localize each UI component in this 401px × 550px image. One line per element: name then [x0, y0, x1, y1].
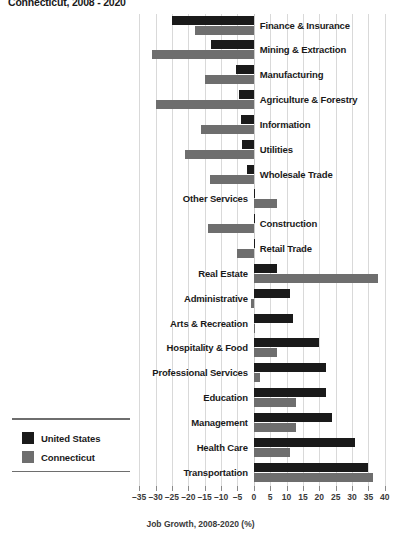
- axis-tick: [139, 486, 140, 491]
- bar-ct: [201, 125, 253, 134]
- bar-ct: [195, 26, 254, 35]
- category-label: Wholesale Trade: [260, 170, 333, 180]
- legend-rule-bottom: [12, 471, 130, 473]
- bar-us: [254, 338, 320, 347]
- legend-swatch-icon-connecticut: [22, 451, 34, 463]
- axis-tick: [156, 486, 157, 491]
- axis-tick: [352, 486, 353, 491]
- axis-tick-label: 5: [268, 492, 273, 502]
- bar-us: [254, 239, 256, 248]
- axis-tick-label: 40: [380, 492, 389, 502]
- x-axis-label: Job Growth, 2008-2020 (%): [0, 519, 401, 529]
- category-label: Arts & Recreation: [170, 319, 248, 329]
- axis-tick: [385, 486, 386, 491]
- bar-us: [211, 40, 254, 49]
- axis-tick-label: –10: [214, 492, 228, 502]
- axis-tick: [319, 486, 320, 491]
- legend-item-united-states[interactable]: United States: [22, 432, 100, 444]
- axis-tick: [188, 486, 189, 491]
- legend-item-connecticut[interactable]: Connecticut: [22, 451, 95, 463]
- bar-ct: [208, 224, 254, 233]
- axis-tick-label: –20: [181, 492, 195, 502]
- legend-label-connecticut: Connecticut: [41, 452, 95, 463]
- bar-ct: [254, 274, 378, 283]
- axis-tick: [287, 486, 288, 491]
- category-label: Real Estate: [198, 269, 248, 279]
- category-label: Retail Trade: [260, 244, 312, 254]
- category-label: Utilities: [260, 145, 293, 155]
- bar-us: [254, 314, 293, 323]
- bar-us: [254, 388, 326, 397]
- bar-us: [242, 140, 253, 149]
- axis-tick: [205, 486, 206, 491]
- axis-tick-label: 20: [315, 492, 324, 502]
- axis-tick: [368, 486, 369, 491]
- bar-ct: [254, 448, 290, 457]
- bar-group: [131, 438, 393, 463]
- category-label: Other Services: [183, 194, 248, 204]
- category-label: Management: [191, 418, 248, 428]
- bar-us: [239, 90, 254, 99]
- chart-legend: United States Connecticut: [12, 418, 130, 472]
- category-label: Finance & Insurance: [260, 21, 350, 31]
- axis-tick: [270, 486, 271, 491]
- axis-tick: [336, 486, 337, 491]
- bar-group: [131, 413, 393, 438]
- axis-tick-label: 30: [347, 492, 356, 502]
- bar-group: [131, 463, 393, 488]
- bar-ct: [251, 299, 254, 308]
- bar-group: [131, 388, 393, 413]
- chart-plot-area: Finance & InsuranceMining & ExtractionMa…: [131, 14, 393, 486]
- bar-us: [241, 115, 254, 124]
- category-label: Professional Services: [152, 368, 248, 378]
- bar-ct: [237, 249, 253, 258]
- bar-ct: [210, 175, 254, 184]
- category-label: Education: [203, 393, 248, 403]
- axis-tick-label: –5: [233, 492, 242, 502]
- axis-tick: [303, 486, 304, 491]
- bar-ct: [156, 100, 254, 109]
- category-label: Manufacturing: [260, 70, 324, 80]
- bar-ct: [254, 473, 374, 482]
- bar-us: [254, 363, 326, 372]
- axis-tick-label: 35: [364, 492, 373, 502]
- category-label: Health Care: [197, 443, 248, 453]
- legend-label-united-states: United States: [41, 433, 100, 444]
- axis-tick: [254, 486, 255, 491]
- bar-us: [236, 65, 254, 74]
- bar-us: [254, 413, 333, 422]
- bar-us: [254, 214, 256, 223]
- bar-ct: [254, 324, 256, 333]
- bar-ct: [152, 50, 254, 59]
- bar-us: [254, 189, 256, 198]
- page-title: Connecticut, 2008 - 2020: [8, 0, 126, 8]
- axis-tick-label: 10: [282, 492, 291, 502]
- bar-us: [247, 165, 254, 174]
- category-label: Hospitality & Food: [167, 343, 248, 353]
- bar-group: [131, 289, 393, 314]
- bar-group: [131, 189, 393, 214]
- bar-ct: [254, 373, 261, 382]
- bar-ct: [254, 398, 297, 407]
- x-axis: –35–30–25–20–15–10–50510152025303540: [131, 486, 393, 487]
- category-label: Mining & Extraction: [260, 45, 346, 55]
- category-label: Transportation: [183, 468, 247, 478]
- legend-swatch-icon-united-states: [22, 432, 34, 444]
- axis-tick-label: –15: [198, 492, 212, 502]
- axis-tick-label: 15: [298, 492, 307, 502]
- bar-ct: [254, 199, 277, 208]
- bar-ct: [185, 150, 254, 159]
- bar-us: [254, 264, 277, 273]
- category-label: Administrative: [184, 294, 248, 304]
- axis-tick-label: 25: [331, 492, 340, 502]
- axis-tick-label: –35: [132, 492, 146, 502]
- axis-tick-label: –25: [165, 492, 179, 502]
- bar-us: [172, 16, 254, 25]
- category-label: Agriculture & Forestry: [260, 95, 358, 105]
- axis-tick: [221, 486, 222, 491]
- bar-ct: [254, 423, 297, 432]
- category-label: Construction: [260, 219, 317, 229]
- bar-ct: [254, 348, 277, 357]
- legend-rule-top: [12, 418, 130, 420]
- category-label: Information: [260, 120, 311, 130]
